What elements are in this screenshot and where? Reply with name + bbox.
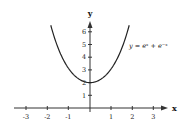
x-tick-label: -3 [23,113,29,121]
x-tick-label: -2 [44,113,50,121]
y-tick-label: 2 [82,79,86,87]
y-tick-label: 5 [82,41,86,49]
x-tick-label: 3 [151,113,155,121]
curve-label: y = eˣ + e⁻ˣ [128,42,168,50]
y-tick-label: 3 [82,66,86,74]
y-tick-label: 6 [82,28,86,36]
y-axis-arrow-icon [88,21,93,28]
x-tick-label: -1 [65,113,71,121]
chart: x -3 -2 -1 1 2 3 y 1 2 3 4 5 6 y [0,0,185,127]
x-tick-label: 1 [109,113,113,121]
y-axis: y [87,8,93,112]
x-tick-label: 2 [130,113,134,121]
y-tick-label: 1 [82,92,86,100]
x-axis: x [14,103,177,113]
x-axis-label: x [172,103,177,113]
y-tick-label: 4 [82,53,86,61]
x-axis-arrow-icon [161,106,168,111]
y-axis-label: y [87,8,93,18]
